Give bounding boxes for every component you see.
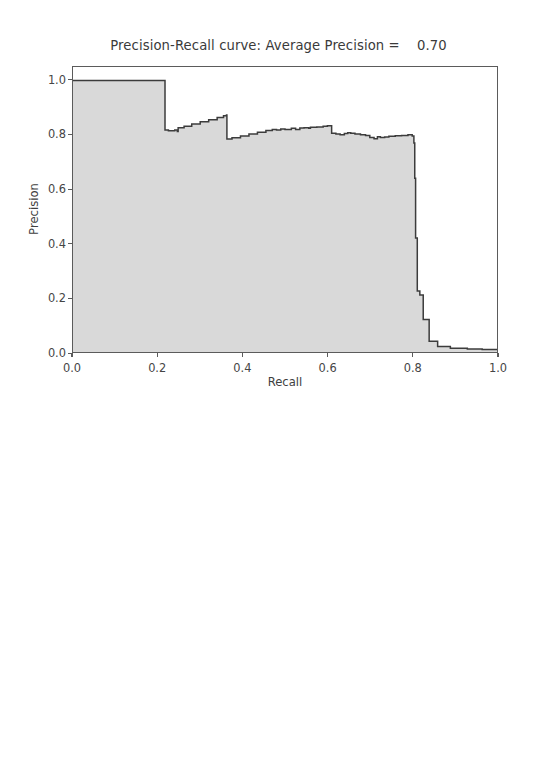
precision-recall-ytick-label: 0.8 [48, 127, 66, 141]
precision-recall-area-fill [73, 81, 497, 352]
precision-recall-xtick-label: 0.6 [319, 361, 337, 375]
precision-recall-svg [73, 67, 497, 352]
precision-recall-xtick-label: 0.8 [404, 361, 422, 375]
precision-recall-xtick-mark [71, 353, 72, 357]
precision-recall-xtick-label: 0.0 [63, 361, 81, 375]
precision-recall-xtick-mark [412, 353, 413, 357]
roc-figure: Receiver operating characteristic: Area … [0, 400, 557, 775]
precision-recall-ytick-mark [68, 189, 72, 190]
precision-recall-ytick-label: 0.2 [48, 291, 66, 305]
precision-recall-x-axis-label: Recall [72, 375, 498, 389]
precision-recall-x-ticks: 0.00.20.40.60.81.0 [72, 357, 498, 377]
precision-recall-ytick-label: 0.4 [48, 237, 66, 251]
precision-recall-ytick-label: 0.0 [48, 346, 66, 360]
precision-recall-xtick-label: 0.4 [233, 361, 251, 375]
precision-recall-figure: Precision-Recall curve: Average Precisio… [0, 0, 557, 400]
precision-recall-ytick-mark [68, 298, 72, 299]
precision-recall-ytick-label: 0.6 [48, 182, 66, 196]
precision-recall-xtick-label: 1.0 [489, 361, 507, 375]
figure-page: { "chart_data": [ { "type": "area", "id"… [0, 0, 557, 775]
precision-recall-title: Precision-Recall curve: Average Precisio… [0, 38, 557, 53]
precision-recall-xtick-mark [242, 353, 243, 357]
precision-recall-plot-area [72, 66, 498, 353]
precision-recall-xtick-mark [497, 353, 498, 357]
precision-recall-xtick-label: 0.2 [148, 361, 166, 375]
precision-recall-xtick-mark [157, 353, 158, 357]
precision-recall-ytick-label: 1.0 [48, 73, 66, 87]
precision-recall-ytick-mark [68, 243, 72, 244]
precision-recall-xtick-mark [327, 353, 328, 357]
precision-recall-ytick-mark [68, 79, 72, 80]
precision-recall-canvas [73, 67, 497, 352]
precision-recall-ytick-mark [68, 134, 72, 135]
precision-recall-y-axis-label: Precision [27, 149, 41, 269]
